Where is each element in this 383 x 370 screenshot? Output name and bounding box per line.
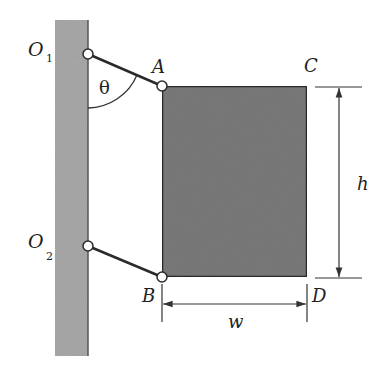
label-o2: O [28,230,44,252]
label-o1-sub: 1 [46,52,53,65]
label-theta: θ [99,77,110,98]
pin-b [157,272,167,282]
pin-a [157,81,167,91]
label-c: C [304,55,318,76]
label-o1: O [28,38,44,60]
rectangular-plate [162,86,307,277]
wall [55,20,88,356]
link-o2-b [88,246,162,277]
pin-o1 [83,49,93,59]
label-a: A [150,56,165,77]
label-o2-sub: 2 [46,250,53,263]
height-dimension [315,87,362,278]
label-h: h [357,173,369,194]
label-d: D [311,285,327,306]
label-w: w [228,311,244,332]
label-b: B [141,285,155,306]
theta-arc [88,75,137,108]
pin-o2 [83,241,93,251]
diagram-canvas: O 1 O 2 θ A B C D h w [0,0,383,370]
